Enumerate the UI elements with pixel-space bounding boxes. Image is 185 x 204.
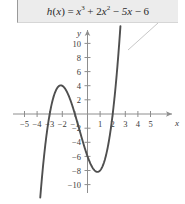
x-tick-label: −3 [45,119,54,129]
y-tick-label: −4 [72,137,82,147]
y-axis-label: y [76,28,81,38]
y-tick-label: 2 [77,95,81,105]
y-axis [85,30,91,193]
x-tick-label: −4 [33,119,43,129]
y-tick-label: 10 [73,39,82,49]
y-tick-label: 4 [77,81,82,91]
cubic-function-figure: h(x)=x3+2x2−5x−6 [0,0,185,204]
callout-leader-line [128,23,158,50]
x-tick-label: 5 [148,119,152,129]
x-tick-label: 3 [123,119,127,129]
y-tick-label: −10 [68,180,81,190]
y-tick-label: −8 [72,166,81,176]
x-tick-label: −2 [58,119,67,129]
y-tick-label: 6 [77,67,81,77]
x-tick-labels: −5 −4 −3 −2 −1 1 2 3 4 5 [20,119,153,129]
x-axis-label: x [174,118,179,128]
x-tick-label: 4 [136,119,141,129]
x-tick-label: 1 [98,119,102,129]
y-tick-label: −6 [72,152,81,162]
coordinate-plane: −5 −4 −3 −2 −1 1 2 3 4 5 10 8 6 4 2 −2 −… [0,0,185,204]
y-tick-label: 8 [77,53,81,63]
x-tick-label: −5 [20,119,29,129]
